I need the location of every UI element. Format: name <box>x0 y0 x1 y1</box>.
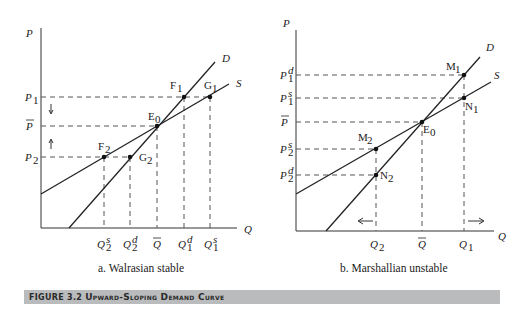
label-n1: N 1 <box>465 100 479 115</box>
price-label-p2s: P 2 s <box>279 138 294 158</box>
point-n2 <box>374 173 379 178</box>
qty-label-qbar-a: Q <box>153 238 161 250</box>
svg-text:Q: Q <box>418 238 426 250</box>
panel-a <box>41 28 237 228</box>
svg-text:N: N <box>380 169 388 181</box>
point-g2 <box>128 155 133 160</box>
svg-text:E: E <box>148 110 155 122</box>
svg-text:1: 1 <box>212 82 218 94</box>
svg-text:0: 0 <box>155 113 161 125</box>
svg-text:2: 2 <box>147 154 153 166</box>
svg-text:P: P <box>24 151 32 163</box>
qty-label-q1s: Q 1 s <box>204 233 219 253</box>
svg-text:2: 2 <box>367 134 373 146</box>
x-axis-label-a: Q <box>244 223 252 235</box>
svg-text:d: d <box>132 233 138 245</box>
svg-text:Q: Q <box>153 238 161 250</box>
svg-text:1: 1 <box>33 94 39 106</box>
demand-label-b: D <box>485 41 494 53</box>
y-axis-label-b: P <box>282 17 290 29</box>
label-f2: F 2 <box>98 140 111 155</box>
svg-text:d: d <box>288 164 294 176</box>
svg-text:2: 2 <box>33 154 39 166</box>
supply-label-b: S <box>494 69 500 81</box>
label-n2: N 2 <box>380 169 394 184</box>
svg-text:P: P <box>25 120 33 132</box>
label-m1: M 1 <box>446 60 461 75</box>
svg-text:2: 2 <box>105 143 111 155</box>
svg-text:Q: Q <box>370 238 378 250</box>
label-g1: G 1 <box>204 79 218 94</box>
svg-text:Q: Q <box>204 238 212 250</box>
supply-label-a: S <box>236 77 242 89</box>
svg-text:Q: Q <box>123 238 131 250</box>
qty-label-q1d: Q 1 d <box>178 233 193 253</box>
point-m1 <box>462 73 467 78</box>
svg-text:F: F <box>98 140 104 152</box>
figure-title: Upward-Sloping Demand Curve <box>85 292 224 302</box>
qty-label-q1-b: Q 1 <box>459 238 474 253</box>
qty-label-q2d: Q 2 d <box>123 233 138 253</box>
svg-text:2: 2 <box>379 241 385 253</box>
svg-text:G: G <box>204 79 212 91</box>
qty-label-q2-b: Q 2 <box>370 238 385 253</box>
caption-b: b. Marshallian unstable <box>340 262 448 274</box>
svg-text:d: d <box>187 233 193 245</box>
svg-text:P: P <box>279 92 287 104</box>
demand-curve-b <box>326 57 480 231</box>
price-label-p1-a: P 1 <box>24 91 39 106</box>
label-e0-b: E 0 <box>423 123 436 138</box>
qty-label-q2s: Q 2 s <box>97 233 112 253</box>
panel-b <box>296 30 494 231</box>
svg-text:P: P <box>279 169 287 181</box>
point-f2 <box>102 155 107 160</box>
label-f1: F 1 <box>170 79 183 94</box>
supply-curve-b <box>296 82 491 194</box>
qty-label-qbar-b: Q <box>418 238 426 250</box>
svg-text:2: 2 <box>388 172 394 184</box>
svg-text:N: N <box>465 100 473 112</box>
svg-text:Q: Q <box>97 238 105 250</box>
label-e0-a: E 0 <box>148 110 161 125</box>
label-m2: M 2 <box>358 131 373 146</box>
svg-text:F: F <box>170 79 176 91</box>
figure-canvas: P Q D S P 1 P P 2 F 1 G 1 E 0 F 2 G 2 Q … <box>0 0 530 325</box>
price-label-pbar-b: P <box>280 116 289 128</box>
point-g1 <box>208 95 213 100</box>
svg-text:1: 1 <box>468 241 474 253</box>
point-f1 <box>182 95 187 100</box>
svg-text:0: 0 <box>430 126 436 138</box>
svg-text:P: P <box>280 116 288 128</box>
price-label-p1s: P 1 s <box>279 87 294 107</box>
svg-text:P: P <box>24 91 32 103</box>
svg-text:d: d <box>288 64 294 76</box>
svg-text:G: G <box>139 151 147 163</box>
svg-text:E: E <box>423 123 430 135</box>
demand-label-a: D <box>221 52 230 64</box>
price-label-p2-a: P 2 <box>24 151 39 166</box>
x-axis-label-b: Q <box>498 230 506 242</box>
price-label-p1d: P 1 d <box>279 64 294 84</box>
svg-text:P: P <box>279 69 287 81</box>
point-m2 <box>374 147 379 152</box>
figure-number: FIGURE 3.2 <box>29 293 82 302</box>
svg-text:s: s <box>106 233 110 245</box>
svg-text:s: s <box>288 138 292 150</box>
supply-curve-a <box>41 84 229 194</box>
svg-text:P: P <box>279 143 287 155</box>
svg-text:1: 1 <box>473 103 479 115</box>
caption-a: a. Walrasian stable <box>98 262 184 274</box>
demand-curve-a <box>69 62 215 228</box>
svg-text:s: s <box>213 233 217 245</box>
svg-text:s: s <box>288 87 292 99</box>
svg-text:1: 1 <box>177 82 183 94</box>
svg-text:Q: Q <box>178 238 186 250</box>
svg-text:1: 1 <box>455 63 461 75</box>
svg-text:Q: Q <box>459 238 467 250</box>
price-label-pbar-a: P <box>25 120 34 132</box>
figure-caption: FIGURE 3.2 Upward-Sloping Demand Curve <box>29 291 224 304</box>
price-label-p2d: P 2 d <box>279 164 294 184</box>
y-axis-label-a: P <box>25 27 33 39</box>
label-g2: G 2 <box>139 151 153 166</box>
